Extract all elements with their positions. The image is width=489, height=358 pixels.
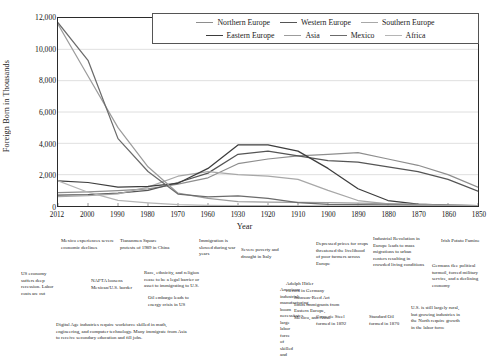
legend-label: Africa [406, 31, 426, 40]
x-tick-label: 1850 [472, 211, 486, 219]
annotation-industrial-revolution: Industrial Revolution in Europe leads to… [373, 236, 426, 269]
x-tick-label: 1900 [321, 211, 335, 219]
annotation-rural-north: U.S. is still largely rural, but growing… [411, 305, 463, 331]
y-tick-label: 10,000 [10, 44, 56, 53]
annotation-italy-poverty: Severe poverty and drought in Italy [241, 247, 287, 260]
annotation-oil-embargo: Oil embargo leads to energy crisis in US [148, 295, 198, 308]
x-tick-label: 2012 [50, 211, 64, 219]
y-tick-label: 2,000 [10, 171, 56, 180]
annotation-mexico-decline: Mexico experiences severe economic decli… [61, 238, 114, 251]
x-tick-label: 1890 [351, 211, 365, 219]
legend-line-icon [385, 35, 402, 36]
legend-label: Northern Europe [217, 18, 270, 27]
legend-line-icon [284, 35, 301, 36]
legend-item-asia[interactable]: Asia [284, 31, 319, 40]
series-line-eastern-europe [58, 145, 478, 206]
legend-label: Eastern Europe [227, 31, 275, 40]
y-tick-label: 12,000 [10, 13, 56, 22]
x-tick-label: 2000 [80, 211, 94, 219]
y-axis-ticks: 02,0004,0006,0008,00010,00012,000 [0, 0, 56, 358]
x-tick-label: 1880 [381, 211, 395, 219]
legend-label: Mexico [351, 31, 375, 40]
legend-row-2: Eastern Europe Asia Mexico Africa [157, 29, 474, 42]
legend-line-icon [196, 22, 213, 23]
x-tick-label: 1860 [442, 211, 456, 219]
chart-legend: Northern Europe Western Europe Southern … [152, 13, 479, 44]
annotation-digital-age: Digital Age industries require workforce… [56, 322, 190, 342]
series-svg [58, 18, 478, 206]
plot-area [57, 17, 479, 207]
legend-item-northern-europe[interactable]: Northern Europe [196, 18, 270, 27]
legend-label: Southern Europe [382, 18, 435, 27]
x-tick-label: 1960 [201, 211, 215, 219]
legend-item-africa[interactable]: Africa [385, 31, 426, 40]
y-tick-label: 8,000 [10, 76, 56, 85]
annotation-carnegie-steel: Carnegie Steel formed in 1892 [316, 314, 358, 327]
y-tick-label: 6,000 [10, 108, 56, 117]
x-tick-label: 1980 [140, 211, 154, 219]
chart-container: Foreign Born in Thousands 02,0004,0006,0… [0, 0, 489, 358]
legend-item-western-europe[interactable]: Western Europe [280, 18, 351, 27]
legend-line-icon [361, 22, 378, 23]
legend-line-icon [280, 22, 297, 23]
annotation-crop-prices: Depressed prices for crops threatened th… [316, 241, 368, 267]
annotation-war-years: Immigration is slowed during war years [199, 238, 239, 258]
x-tick-label: 1930 [231, 211, 245, 219]
x-tick-label: 1870 [412, 211, 426, 219]
legend-line-icon [206, 35, 223, 36]
legend-label: Asia [305, 31, 319, 40]
annotation-standard-oil: Standard Oil formed in 1870 [369, 314, 402, 327]
legend-label: Western Europe [301, 18, 351, 27]
x-tick-label: 1970 [170, 211, 184, 219]
annotation-us-recession: US economy suffers deep recession. Labor… [21, 271, 56, 297]
annotation-germans-flee: Germans flee political turmoil, forced m… [432, 263, 482, 289]
legend-item-southern-europe[interactable]: Southern Europe [361, 18, 435, 27]
annotation-irish-famine: Irish Potato Famine [441, 238, 481, 245]
annotation-nafta: NAFTA loosens Mexican/U.S. border [91, 278, 143, 291]
legend-item-eastern-europe[interactable]: Eastern Europe [206, 31, 275, 40]
x-tick-label: 1990 [110, 211, 124, 219]
series-line-asia [58, 24, 478, 205]
series-line-mexico [58, 23, 478, 206]
legend-item-mexico[interactable]: Mexico [330, 31, 375, 40]
legend-row-1: Northern Europe Western Europe Southern … [157, 16, 474, 29]
legend-line-icon [330, 35, 347, 36]
series-line-western-europe [58, 151, 478, 195]
annotation-race-ethnicity: Race, ethnicity, and religion cease to b… [144, 270, 202, 290]
x-tick-label: 1910 [291, 211, 305, 219]
annotation-tiananmen: Tiananmen Square protests of 1989 in Chi… [120, 238, 172, 251]
x-tick-label: 1920 [261, 211, 275, 219]
x-axis-title: Year [0, 222, 489, 231]
y-tick-label: 4,000 [10, 139, 56, 148]
